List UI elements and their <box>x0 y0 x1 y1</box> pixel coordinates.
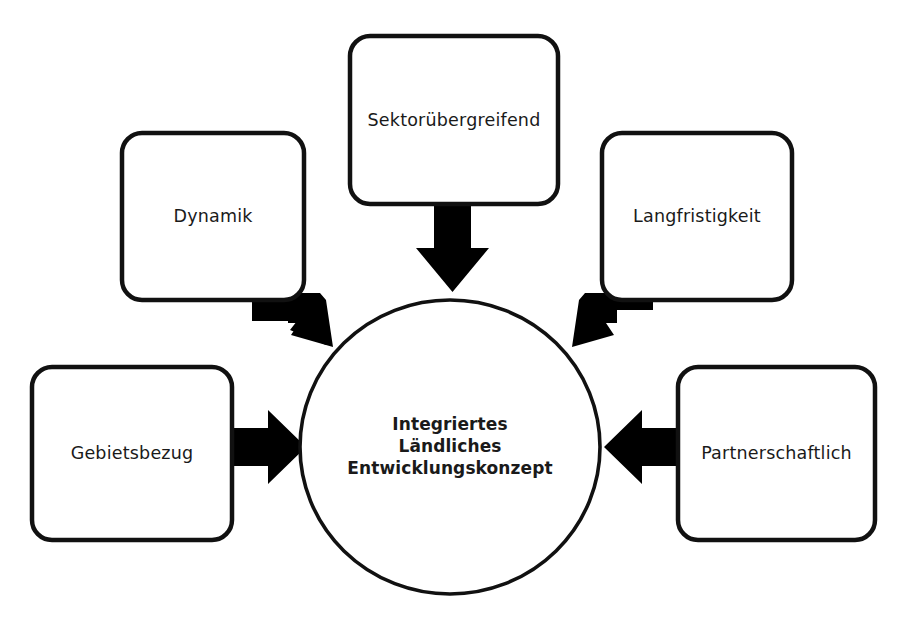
diagram-canvas: Sektorübergreifend Dynamik Langfristigke… <box>0 0 914 620</box>
page-caption-strip <box>0 596 914 620</box>
node-box-dynamik[interactable] <box>122 133 304 300</box>
diagram-graphics <box>0 0 914 620</box>
core-circle[interactable] <box>300 300 600 594</box>
arrow-sektoruebergreifend-to-core <box>416 196 489 292</box>
arrow-gebietsbezug-to-core <box>232 410 306 484</box>
node-box-partnerschaftlich[interactable] <box>678 367 875 540</box>
node-box-sektoruebergreifend[interactable] <box>350 36 558 204</box>
node-box-langfristigkeit[interactable] <box>602 133 792 300</box>
arrow-partnerschaftlich-to-core <box>604 410 680 484</box>
node-box-gebietsbezug[interactable] <box>32 367 232 540</box>
